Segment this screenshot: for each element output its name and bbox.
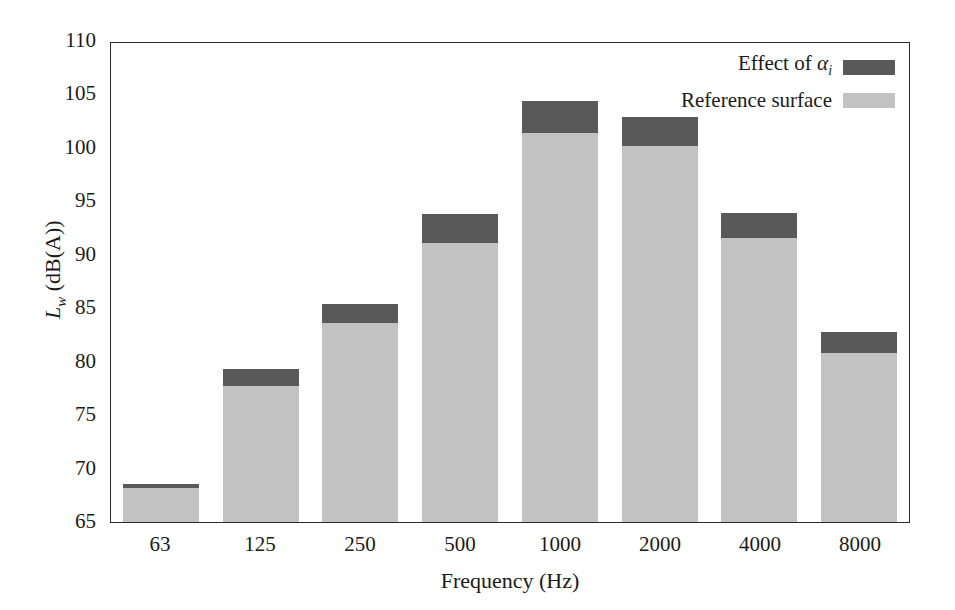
bar-segment-reference[interactable] [422, 243, 498, 522]
bar-segment-effect[interactable] [721, 213, 797, 238]
bar-group [111, 43, 909, 522]
legend-item-label: Reference surface [681, 88, 832, 112]
legend-item-label: Effect of αi [738, 51, 832, 83]
bar-segment-reference[interactable] [721, 238, 797, 522]
bar-slot [111, 43, 211, 522]
bar[interactable] [622, 117, 698, 522]
bar-chart-figure: Lw (dB(A)) 65707580859095100105110 Effec… [0, 0, 955, 610]
x-axis-tick-label: 2000 [610, 530, 710, 560]
bar[interactable] [422, 214, 498, 522]
x-axis-tick-label: 1000 [510, 530, 610, 560]
bar[interactable] [821, 332, 897, 522]
x-axis-tick-label: 250 [310, 530, 410, 560]
y-axis-tick-label: 105 [65, 82, 97, 104]
y-axis-title-subscript: w [53, 297, 69, 307]
x-axis-title: Frequency (Hz) [110, 568, 910, 594]
plot-area: Effect of αiReference surface [110, 42, 910, 523]
y-axis-tick-label: 100 [65, 136, 97, 158]
bar-segment-effect[interactable] [522, 101, 598, 133]
legend-item-swatch [843, 93, 895, 108]
bar[interactable] [322, 304, 398, 522]
legend-item-swatch [843, 60, 895, 75]
bar-segment-effect[interactable] [821, 332, 897, 353]
bar-segment-reference[interactable] [123, 488, 199, 522]
bar-slot [311, 43, 411, 522]
x-axis-tick-label: 125 [210, 530, 310, 560]
bar-segment-effect[interactable] [223, 369, 299, 386]
legend: Effect of αiReference surface [681, 51, 895, 112]
bar-slot [410, 43, 510, 522]
bar-slot [710, 43, 810, 522]
bar[interactable] [223, 369, 299, 522]
x-axis-tick-label: 8000 [810, 530, 910, 560]
bar-segment-effect[interactable] [322, 304, 398, 323]
y-axis-title: Lw (dB(A)) [40, 155, 69, 385]
bar[interactable] [123, 484, 199, 522]
y-axis-tick-label: 70 [75, 457, 96, 479]
bar-segment-effect[interactable] [622, 117, 698, 146]
y-axis-tick-label: 80 [75, 350, 96, 372]
y-axis-tick-label: 75 [75, 403, 96, 425]
bar-segment-reference[interactable] [322, 323, 398, 522]
y-axis-tick-label: 110 [65, 29, 96, 51]
bar-segment-reference[interactable] [622, 146, 698, 522]
y-axis-tick-label: 65 [75, 510, 96, 532]
x-axis-tick-label: 63 [110, 530, 210, 560]
bar-slot [610, 43, 710, 522]
y-axis-title-unit: (dB(A)) [40, 220, 65, 296]
x-axis-tick-label: 4000 [710, 530, 810, 560]
bar-segment-effect[interactable] [422, 214, 498, 243]
legend-item-effect-of-alpha: Effect of αi [681, 51, 895, 83]
bar-segment-reference[interactable] [223, 386, 299, 522]
bar-slot [809, 43, 909, 522]
bar-slot [510, 43, 610, 522]
y-axis-tick-label: 85 [75, 296, 96, 318]
y-axis-tick-label: 90 [75, 243, 96, 265]
bar-segment-reference[interactable] [821, 353, 897, 522]
x-axis-tick-label: 500 [410, 530, 510, 560]
y-axis-title-symbol: L [40, 307, 65, 319]
bar-segment-reference[interactable] [522, 133, 598, 522]
x-axis-tick-labels: 631252505001000200040008000 [110, 530, 910, 560]
bar[interactable] [522, 101, 598, 522]
bar[interactable] [721, 213, 797, 522]
bar-slot [211, 43, 311, 522]
y-axis-tick-label: 95 [75, 189, 96, 211]
legend-item-reference-surface: Reference surface [681, 88, 895, 112]
